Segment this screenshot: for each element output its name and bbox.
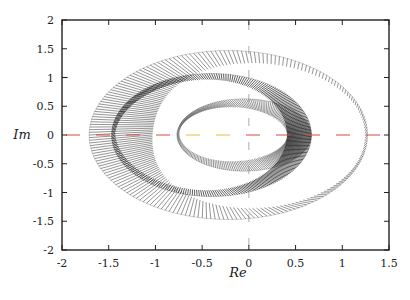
band-hatch: [185, 189, 186, 195]
band-hatch: [266, 101, 267, 114]
y-tick-labels: -2-1.5-1-0.500.511.52: [33, 14, 54, 257]
band-hatch: [120, 110, 127, 111]
band-hatch: [219, 74, 220, 81]
x-tick-label: -0.5: [192, 257, 213, 270]
band-hatch: [230, 161, 233, 170]
band-hatch: [263, 53, 264, 63]
band-hatch: [216, 205, 220, 220]
band-hatch: [265, 89, 278, 96]
band-hatch: [255, 179, 270, 184]
band-hatch: [237, 208, 245, 219]
y-tick-label: 2: [47, 14, 54, 27]
band-hatch: [198, 155, 199, 161]
band-hatch: [303, 200, 313, 202]
band-hatch: [204, 74, 208, 80]
band-hatch: [283, 57, 284, 65]
band-hatch: [365, 127, 367, 131]
y-tick-label: 0.5: [37, 100, 55, 113]
band-hatch: [202, 201, 203, 218]
band-hatch: [294, 61, 295, 68]
band-hatch: [249, 182, 262, 188]
band-hatch: [201, 157, 202, 163]
y-axis-label: Im: [12, 127, 30, 142]
band-hatch: [93, 114, 155, 118]
band-hatch: [357, 104, 358, 108]
band-hatch: [347, 92, 348, 96]
band-hatch: [301, 64, 303, 71]
band-hatch: [244, 184, 256, 190]
y-tick-label: -0.5: [33, 158, 54, 171]
band-hatch: [261, 86, 272, 93]
y-tick-label: 0: [47, 129, 54, 142]
band-hatch: [134, 96, 143, 97]
band-hatch: [298, 62, 299, 69]
band-hatch: [230, 207, 237, 219]
band-hatch: [189, 114, 197, 115]
band-hatch: [242, 77, 247, 84]
band-hatch: [223, 161, 225, 170]
band-hatch: [209, 203, 211, 219]
band-hatch: [199, 190, 200, 196]
band-hatch: [199, 74, 204, 80]
band-hatch: [245, 208, 255, 218]
band-hatch: [284, 205, 295, 209]
band-hatch: [363, 119, 365, 123]
band-hatch: [220, 161, 221, 169]
x-axis-label: Re: [228, 265, 247, 280]
band-hatch: [250, 182, 264, 188]
y-tick-label: -2: [43, 244, 54, 257]
band-hatch: [212, 204, 215, 219]
band-hatch: [232, 161, 236, 171]
y-tick-label: 1: [47, 72, 54, 85]
band-hatch: [205, 190, 207, 196]
band-hatch: [117, 114, 124, 115]
band-hatch: [299, 201, 310, 203]
band-hatch: [130, 174, 163, 195]
band-hatch: [334, 81, 335, 86]
band-hatch: [165, 190, 180, 211]
band-hatch: [290, 60, 291, 68]
band-hatch: [169, 59, 192, 76]
band-hatch: [221, 74, 222, 81]
band-hatch: [249, 208, 259, 217]
band-hatch: [201, 190, 202, 196]
band-hatch: [345, 90, 346, 94]
band-hatch: [203, 190, 205, 196]
band-hatch: [361, 111, 362, 115]
band-hatch: [262, 87, 274, 94]
band-hatch: [215, 190, 219, 196]
band-hatch: [137, 94, 146, 95]
band-hatch: [189, 150, 190, 155]
band-hatch: [243, 161, 250, 171]
band-hatch: [270, 102, 273, 115]
band-hatch: [253, 208, 263, 217]
y-tick-label: -1: [43, 187, 54, 200]
x-tick-label: -1: [150, 257, 161, 270]
band-hatch: [187, 150, 189, 155]
band-hatch: [325, 75, 326, 80]
band-hatch: [194, 199, 197, 217]
band-hatch: [319, 72, 321, 77]
band-hatch: [181, 195, 189, 214]
band-hatch: [127, 172, 162, 193]
band-hatch: [307, 199, 317, 200]
band-hatch: [327, 189, 335, 190]
band-hatch: [272, 207, 283, 213]
band-hatch: [216, 74, 218, 81]
band-hatch: [322, 73, 323, 78]
band-hatch: [364, 122, 366, 126]
band-hatch: [296, 202, 307, 205]
band-hatch: [121, 109, 129, 110]
band-hatch: [233, 75, 235, 82]
band-hatch: [215, 51, 223, 66]
band-hatch: [116, 116, 122, 117]
band-hatch: [351, 97, 352, 101]
band-hatch: [190, 151, 191, 156]
x-tick-label: 0.5: [287, 257, 305, 270]
band-hatch: [280, 206, 291, 211]
band-hatch: [353, 99, 354, 103]
band-hatch: [91, 122, 154, 124]
band-hatch: [305, 65, 307, 71]
band-hatch: [215, 160, 216, 168]
band-hatch: [362, 114, 363, 118]
